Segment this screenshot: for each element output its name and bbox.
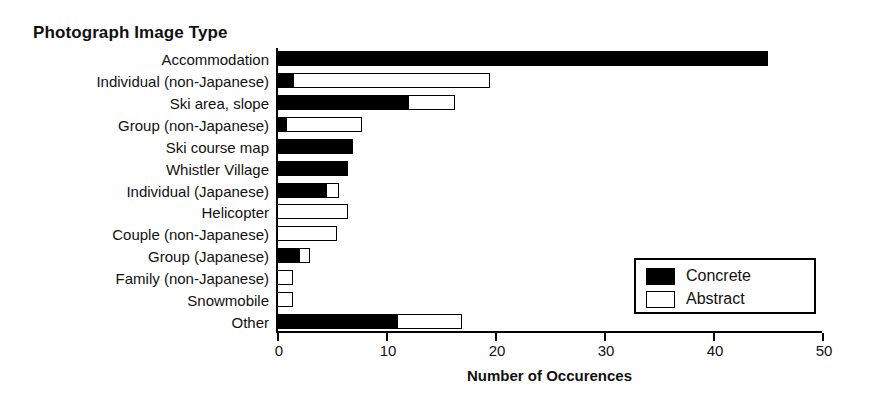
bar-row [277,139,822,154]
category-label: Helicopter [0,205,269,220]
chart-legend: Concrete Abstract [634,258,816,314]
bar-row [277,51,822,66]
bar-row [277,117,822,132]
bar-segment-concrete [277,73,293,88]
bar-segment-concrete [277,95,408,110]
category-label: Accommodation [0,52,269,67]
bar-row [277,95,822,110]
legend-swatch-concrete-icon [646,268,675,285]
x-axis-line [276,331,822,333]
category-label: Whistler Village [0,162,269,177]
legend-swatch-abstract-icon [646,291,675,308]
legend-item-abstract: Abstract [646,289,745,309]
category-label: Group (Japanese) [0,249,269,264]
bar-segment-concrete [277,51,768,66]
bar-segment-concrete [277,183,326,198]
x-axis-tick-label: 50 [804,342,844,359]
bar-row [277,183,822,198]
bar-segment-abstract [299,248,310,263]
bar-segment-abstract [286,117,362,132]
chart-title: Photograph Image Type [33,23,227,43]
bar-segment-abstract [397,314,462,329]
bar-row [277,314,822,329]
bar-segment-abstract [277,292,293,307]
bar-segment-abstract [293,73,489,88]
bar-segment-abstract [277,204,348,219]
category-label: Snowmobile [0,293,269,308]
legend-item-concrete: Concrete [646,266,751,286]
category-label: Individual (Japanese) [0,184,269,199]
bar-segment-abstract [277,270,293,285]
x-axis-tick [277,333,279,341]
bar-segment-concrete [277,248,299,263]
legend-label-abstract: Abstract [686,291,745,307]
x-axis-tick-label: 20 [477,342,517,359]
bar-chart: Photograph Image Type AccommodationIndiv… [0,0,890,405]
bar-row [277,204,822,219]
bar-row [277,226,822,241]
x-axis-tick [822,333,824,341]
bar-segment-concrete [277,139,353,154]
bar-row [277,73,822,88]
x-axis-tick [386,333,388,341]
bar-segment-abstract [326,183,339,198]
x-axis-tick-label: 0 [259,342,299,359]
category-label: Couple (non-Japanese) [0,227,269,242]
x-axis-tick-label: 40 [695,342,735,359]
category-label: Ski course map [0,140,269,155]
bar-segment-concrete [277,161,348,176]
category-label: Ski area, slope [0,96,269,111]
y-axis-line [276,48,278,333]
legend-label-concrete: Concrete [686,268,751,284]
x-axis-tick [495,333,497,341]
x-axis-tick [604,333,606,341]
bar-row [277,161,822,176]
category-label: Individual (non-Japanese) [0,74,269,89]
category-label: Family (non-Japanese) [0,271,269,286]
bar-segment-abstract [277,226,337,241]
x-axis-tick-label: 10 [368,342,408,359]
y-axis-category-labels: AccommodationIndividual (non-Japanese)Sk… [0,48,269,332]
x-axis-tick [713,333,715,341]
category-label: Other [0,315,269,330]
bar-segment-abstract [408,95,455,110]
x-axis-title: Number of Occurences [277,367,822,384]
category-label: Group (non-Japanese) [0,118,269,133]
x-axis-tick-label: 30 [586,342,626,359]
bar-segment-concrete [277,117,286,132]
bar-segment-concrete [277,314,397,329]
